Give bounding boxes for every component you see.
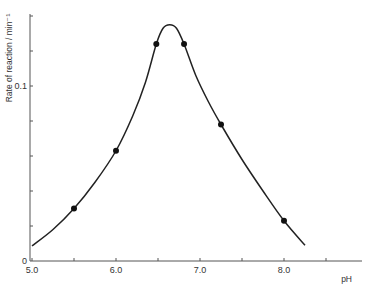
data-point (113, 148, 119, 154)
x-tick-label: 6.0 (110, 265, 123, 275)
data-points (71, 41, 287, 224)
ph-rate-chart: 5.06.07.08.0 00.1 pH Rate of reaction / … (0, 0, 368, 290)
data-point (153, 41, 159, 47)
y-tick-label: 0.1 (14, 81, 27, 91)
fitted-curve (32, 25, 305, 246)
data-point (71, 206, 77, 212)
axes (30, 14, 362, 261)
x-tick-label: 7.0 (194, 265, 207, 275)
x-tick-label: 5.0 (26, 265, 39, 275)
data-point (218, 122, 224, 128)
y-tick-label: 0 (22, 256, 27, 266)
data-point (181, 41, 187, 47)
x-tick-label: 8.0 (278, 265, 291, 275)
data-point (281, 218, 287, 224)
x-axis-label: pH (341, 274, 352, 284)
y-axis-label: Rate of reaction / min⁻¹ (4, 14, 14, 103)
